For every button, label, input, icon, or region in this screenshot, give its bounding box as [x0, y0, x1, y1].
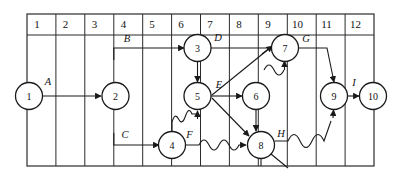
node-5-label: 5 — [195, 91, 200, 102]
node-3[interactable]: 3 — [184, 35, 211, 62]
column-header-6: 6 — [178, 18, 184, 30]
column-headers: 1 2 3 4 5 6 7 8 9 10 11 12 — [34, 18, 361, 30]
edge-F-squiggle — [172, 110, 198, 131]
edge-label-F: F — [185, 129, 193, 140]
column-header-9: 9 — [265, 18, 271, 30]
node-9-label: 9 — [332, 91, 337, 102]
edge-label-I: I — [351, 77, 356, 88]
node-10-label: 10 — [368, 91, 378, 102]
edge-B-connector — [114, 48, 184, 60]
edge-5-to-8-diagonal — [212, 98, 249, 136]
node-8[interactable]: 8 — [248, 132, 275, 159]
node-6[interactable]: 6 — [243, 83, 270, 110]
edge-label-C: C — [121, 129, 129, 140]
activity-network-svg: 1 2 3 4 5 6 7 8 9 10 11 12 — [0, 0, 399, 185]
node-1-label: 1 — [27, 91, 32, 102]
column-header-5: 5 — [149, 18, 155, 30]
diagram-canvas: 1 2 3 4 5 6 7 8 9 10 11 12 — [0, 0, 399, 185]
edge-8-to-7-squiggle — [264, 65, 284, 75]
column-header-11: 11 — [321, 18, 332, 30]
edge-label-E: E — [215, 79, 223, 90]
column-header-12: 12 — [350, 18, 361, 30]
node-8-label: 8 — [259, 140, 264, 151]
node-4[interactable]: 4 — [159, 132, 186, 159]
node-4-label: 4 — [170, 140, 175, 151]
node-9[interactable]: 9 — [321, 83, 348, 110]
node-7-label: 7 — [283, 43, 288, 54]
edge-label-D: D — [213, 32, 222, 43]
node-7[interactable]: 7 — [272, 35, 299, 62]
edge-label-A: A — [44, 76, 52, 87]
node-2[interactable]: 2 — [102, 83, 129, 110]
node-6-label: 6 — [254, 91, 259, 102]
node-3-label: 3 — [195, 43, 200, 54]
column-header-8: 8 — [236, 18, 242, 30]
edge-label-H: H — [276, 128, 286, 139]
column-header-10: 10 — [292, 18, 304, 30]
edge-label-B: B — [124, 33, 131, 44]
column-header-7: 7 — [207, 18, 213, 30]
column-header-2: 2 — [63, 18, 69, 30]
edge-4-to-8-squiggle — [186, 140, 246, 150]
node-2-label: 2 — [113, 91, 118, 102]
column-header-3: 3 — [92, 18, 98, 30]
node-1[interactable]: 1 — [16, 83, 43, 110]
edge-H-arrow — [333, 110, 334, 118]
node-5[interactable]: 5 — [184, 83, 211, 110]
column-header-1: 1 — [34, 18, 40, 30]
edge-label-G: G — [302, 33, 310, 44]
node-10[interactable]: 10 — [360, 83, 387, 110]
column-header-4: 4 — [121, 18, 127, 30]
